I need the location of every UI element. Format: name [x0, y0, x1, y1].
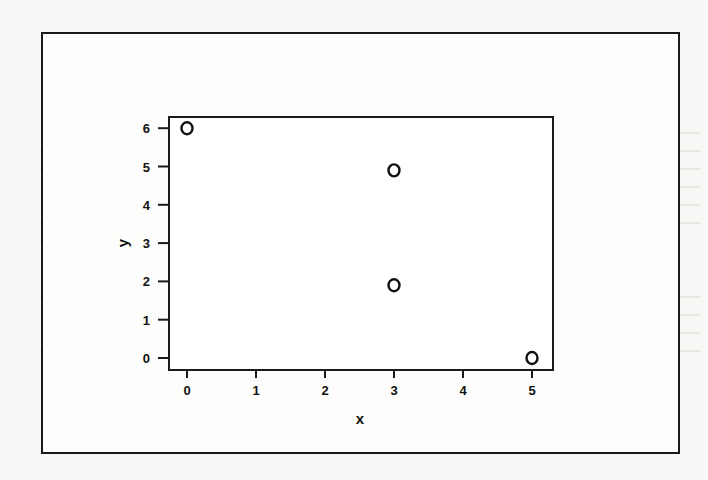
x-tick-label: 1 — [252, 383, 259, 398]
y-tick-label: 2 — [143, 274, 150, 289]
y-tick-label: 0 — [143, 351, 150, 366]
x-tick-label: 4 — [459, 383, 467, 398]
x-tick-label: 5 — [528, 383, 535, 398]
plot-area — [169, 117, 553, 370]
y-tick-label: 4 — [143, 198, 151, 213]
x-tick-label: 3 — [390, 383, 397, 398]
y-tick-label: 3 — [143, 236, 150, 251]
y-tick-label: 1 — [143, 313, 150, 328]
x-axis-label: x — [356, 410, 365, 427]
x-tick-label: 2 — [321, 383, 328, 398]
y-tick-label: 6 — [143, 121, 150, 136]
scatter-figure: 012345 0123456 x y — [0, 0, 708, 480]
y-tick-label: 5 — [143, 160, 150, 175]
y-axis-label: y — [114, 238, 131, 247]
x-tick-label: 0 — [183, 383, 190, 398]
